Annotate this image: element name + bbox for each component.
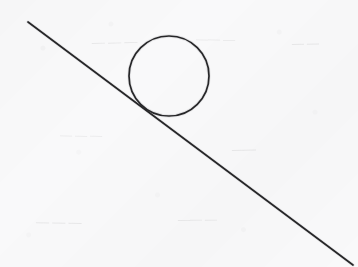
circle [129,36,209,116]
ink-group [28,22,353,265]
figure-canvas: — — ——— —— —— — ———— — ——— — Circle tang… [0,0,358,267]
straight-line [28,22,353,265]
geometry-figure: Circle tangent to a straight line A hand… [0,0,358,267]
